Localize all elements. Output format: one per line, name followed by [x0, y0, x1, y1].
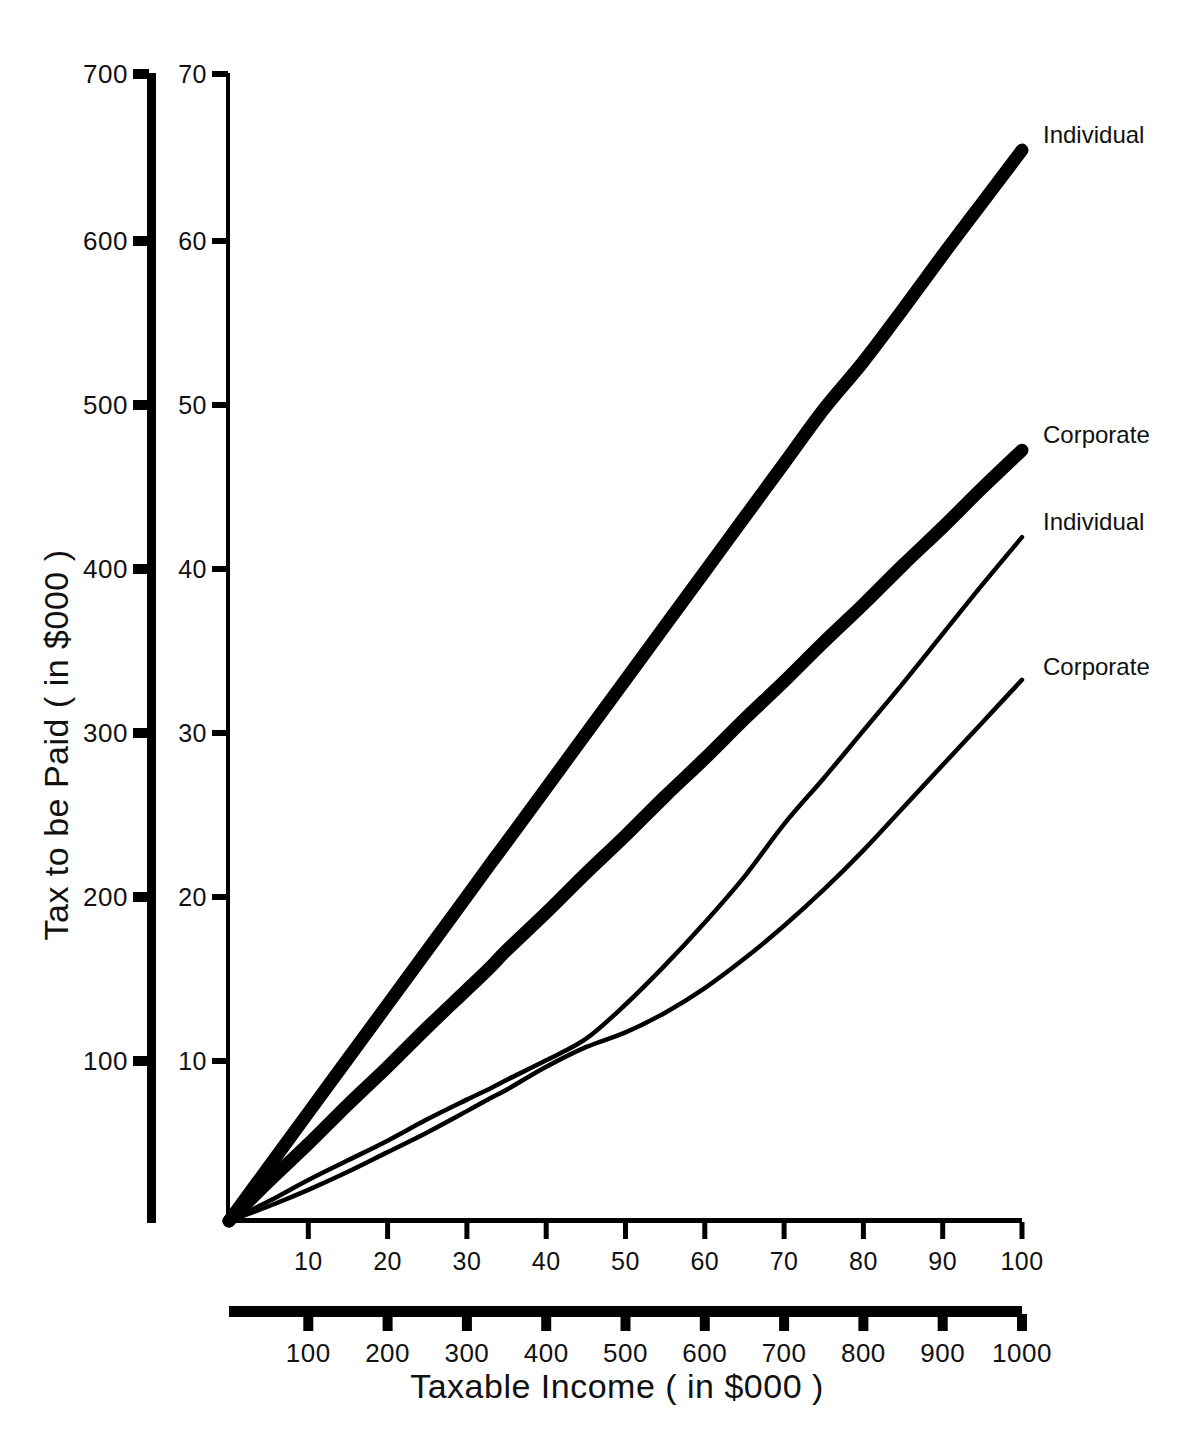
- x-outer-label-1000: 1000: [992, 1338, 1052, 1368]
- x-outer-tick-300: [462, 1314, 472, 1331]
- x-inner-label-20: 20: [373, 1247, 402, 1275]
- x-outer-tick-700: [779, 1314, 789, 1331]
- y-outer-label-400: 400: [83, 554, 128, 584]
- y-outer-tick-300: [133, 728, 149, 738]
- series-line-individual-small: [229, 537, 1022, 1221]
- tax-chart: 700 600 500 400 300 200 100 70 60 50 40 …: [0, 0, 1191, 1450]
- y-axis-small-scale: 70 60 50 40 30 20 10: [178, 60, 230, 1223]
- x-inner-label-10: 10: [294, 1247, 323, 1275]
- y-outer-label-100: 100: [83, 1046, 128, 1076]
- x-inner-label-100: 100: [1000, 1247, 1043, 1275]
- x-inner-label-70: 70: [770, 1247, 799, 1275]
- x-outer-tick-400: [541, 1314, 551, 1331]
- y-outer-tick-700: [133, 69, 149, 79]
- x-outer-label-600: 600: [682, 1338, 727, 1368]
- x-inner-tick-50: [623, 1222, 628, 1239]
- y-inner-tick-70: [212, 71, 228, 77]
- x-outer-tick-100: [303, 1314, 313, 1331]
- x-outer-label-800: 800: [841, 1338, 886, 1368]
- y-inner-label-30: 30: [178, 719, 207, 747]
- series-group: [229, 150, 1022, 1221]
- x-outer-label-900: 900: [920, 1338, 965, 1368]
- x-axis-large-scale: 1002003004005006007008009001000: [229, 1306, 1052, 1368]
- y-outer-tick-100: [133, 1056, 149, 1066]
- x-inner-tick-60: [702, 1222, 707, 1239]
- x-inner-label-40: 40: [532, 1247, 561, 1275]
- series-label-1: Corporate: [1043, 421, 1150, 448]
- y-inner-label-10: 10: [178, 1047, 207, 1075]
- x-outer-label-700: 700: [762, 1338, 807, 1368]
- x-outer-label-500: 500: [603, 1338, 648, 1368]
- y-axis-title: Tax to be Paid ( in $000 ): [37, 549, 75, 940]
- x-inner-label-30: 30: [452, 1247, 481, 1275]
- series-line-corporate-large: [229, 450, 1022, 1221]
- y-outer-label-500: 500: [83, 390, 128, 420]
- y-outer-tick-500: [133, 400, 149, 410]
- x-outer-label-400: 400: [524, 1338, 569, 1368]
- x-inner-tick-80: [861, 1222, 866, 1239]
- x-axis-title: Taxable Income ( in $000 ): [410, 1367, 824, 1405]
- x-inner-tick-100: [1020, 1222, 1025, 1239]
- y-outer-label-200: 200: [83, 882, 128, 912]
- x-outer-label-300: 300: [444, 1338, 489, 1368]
- y-outer-label-300: 300: [83, 718, 128, 748]
- series-label-3: Corporate: [1043, 653, 1150, 680]
- x-outer-tick-500: [621, 1314, 631, 1331]
- scan-artifact: [760, 2, 767, 17]
- x-inner-tick-30: [464, 1222, 469, 1239]
- x-outer-tick-800: [858, 1314, 868, 1331]
- x-inner-label-50: 50: [611, 1247, 640, 1275]
- y-outer-tick-600: [133, 236, 149, 246]
- y-inner-tick-10: [212, 1058, 228, 1064]
- x-outer-tick-200: [383, 1314, 393, 1331]
- y-inner-tick-20: [212, 894, 228, 900]
- y-outer-tick-400: [133, 564, 149, 574]
- x-inner-tick-70: [782, 1222, 787, 1239]
- y-inner-tick-50: [212, 402, 228, 408]
- y-inner-label-40: 40: [178, 555, 207, 583]
- y-outer-tick-200: [133, 892, 149, 902]
- x-inner-label-60: 60: [690, 1247, 719, 1275]
- y-outer-label-700: 700: [83, 59, 128, 89]
- series-line-corporate-small: [229, 680, 1022, 1221]
- y-inner-tick-40: [212, 566, 228, 572]
- x-axis-small-scale: 102030405060708090100: [226, 1218, 1044, 1275]
- y-inner-tick-60: [212, 238, 228, 244]
- x-outer-label-200: 200: [365, 1338, 410, 1368]
- y-inner-label-60: 60: [178, 227, 207, 255]
- y-inner-label-50: 50: [178, 391, 207, 419]
- y-axis-large-scale: 700 600 500 400 300 200 100: [83, 59, 156, 1223]
- y-outer-label-600: 600: [83, 226, 128, 256]
- x-inner-tick-40: [544, 1222, 549, 1239]
- series-labels: IndividualCorporateIndividualCorporate: [1043, 121, 1150, 680]
- y-inner-tick-30: [212, 730, 228, 736]
- y-inner-label-70: 70: [178, 60, 207, 88]
- x-outer-tick-1000: [1017, 1314, 1027, 1331]
- x-inner-tick-90: [940, 1222, 945, 1239]
- series-label-2: Individual: [1043, 508, 1144, 535]
- x-outer-tick-900: [938, 1314, 948, 1331]
- x-inner-label-90: 90: [928, 1247, 957, 1275]
- x-outer-label-100: 100: [286, 1338, 331, 1368]
- y-inner-label-20: 20: [178, 883, 207, 911]
- x-inner-tick-20: [385, 1222, 390, 1239]
- series-label-0: Individual: [1043, 121, 1144, 148]
- x-inner-tick-10: [306, 1222, 311, 1239]
- x-inner-label-80: 80: [849, 1247, 878, 1275]
- x-outer-tick-600: [700, 1314, 710, 1331]
- chart-canvas: 700 600 500 400 300 200 100 70 60 50 40 …: [0, 0, 1191, 1450]
